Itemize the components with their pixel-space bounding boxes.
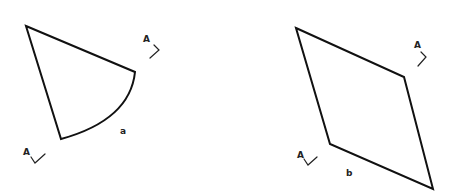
section-marker-b-lower: A: [297, 150, 317, 165]
section-arrow-icon: [418, 52, 426, 66]
diagram-canvas: A A a A A b: [0, 0, 458, 192]
section-label: A: [143, 34, 150, 44]
sector-shape: [26, 26, 135, 139]
section-arrow-icon: [150, 45, 159, 58]
section-arrow-icon: [31, 154, 45, 163]
section-arrow-icon: [304, 157, 317, 165]
figure-label-b: b: [346, 168, 353, 178]
section-label: A: [414, 40, 421, 50]
figure-a: A A a: [23, 26, 159, 163]
section-marker-a-upper: A: [143, 34, 159, 58]
section-label: A: [23, 147, 30, 157]
section-label: A: [297, 150, 304, 160]
figure-label-a: a: [120, 126, 126, 136]
section-marker-b-upper: A: [414, 40, 426, 66]
rhombus-shape: [296, 28, 433, 189]
section-marker-a-lower: A: [23, 147, 45, 163]
figure-b: A A b: [296, 28, 433, 189]
